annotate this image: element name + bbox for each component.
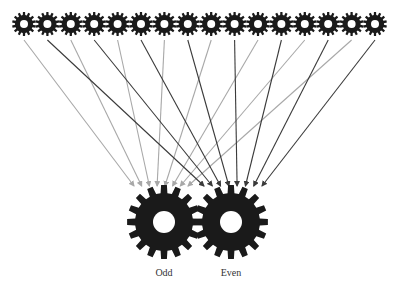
even-gear-label: Even — [221, 267, 242, 278]
odd-gear-label: Odd — [155, 267, 172, 278]
small-gear-icon — [223, 12, 247, 36]
top-gear-row — [12, 12, 387, 36]
small-gear-icon — [340, 12, 364, 36]
small-gear-icon — [363, 12, 387, 36]
small-gear-icon — [270, 12, 294, 36]
small-gear-icon — [246, 12, 270, 36]
even-arrow — [245, 40, 281, 186]
small-gear-icon — [129, 12, 153, 36]
arrows-layer — [24, 40, 375, 186]
even-arrow — [262, 40, 375, 186]
small-gear-icon — [36, 12, 60, 36]
bottom-gears — [127, 185, 268, 259]
even-arrow — [235, 40, 238, 186]
odd-arrow — [165, 40, 211, 186]
odd-arrow — [71, 40, 142, 186]
small-gear-icon — [106, 12, 130, 36]
even-gear-icon — [194, 185, 268, 259]
odd-arrow — [118, 40, 150, 186]
small-gear-icon — [316, 12, 340, 36]
odd-arrow — [24, 40, 134, 186]
small-gear-icon — [199, 12, 223, 36]
small-gear-icon — [176, 12, 200, 36]
small-gear-icon — [153, 12, 177, 36]
odd-arrow — [180, 40, 304, 186]
small-gear-icon — [293, 12, 317, 36]
gear-diagram — [0, 0, 397, 285]
odd-gear-icon — [127, 185, 201, 259]
odd-arrow — [188, 40, 352, 186]
even-arrow — [254, 40, 329, 186]
odd-arrow — [157, 40, 164, 186]
small-gear-icon — [59, 12, 83, 36]
small-gear-icon — [82, 12, 106, 36]
small-gear-icon — [12, 12, 36, 36]
odd-arrow — [173, 40, 258, 186]
